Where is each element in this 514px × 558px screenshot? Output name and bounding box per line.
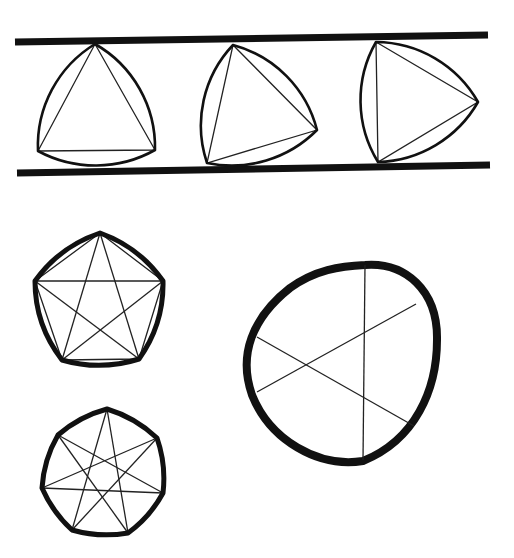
width-chord: [363, 265, 365, 460]
inscribed-triangle: [376, 42, 478, 162]
inscribed-triangle: [38, 44, 155, 151]
reuleaux-triangles: [38, 42, 478, 166]
reuleaux-outline: [38, 44, 155, 166]
triangle-1: [38, 44, 155, 166]
diagonal: [62, 233, 100, 360]
constant-width-diagram: [0, 0, 514, 558]
top-rail: [15, 35, 488, 42]
diagonal: [58, 435, 163, 493]
reuleaux-heptagon: [42, 409, 164, 535]
diagonal: [42, 488, 163, 493]
triangle-3: [361, 42, 478, 162]
triangle-2: [201, 45, 317, 166]
reuleaux-pentagon: [35, 233, 163, 365]
width-chord: [257, 337, 414, 426]
constant-width-curve: [247, 265, 437, 462]
diagonal: [107, 409, 128, 533]
width-chord: [257, 304, 416, 392]
reuleaux-heptagon-outline: [42, 409, 164, 535]
diagonal: [58, 435, 128, 533]
smooth-constant-width-outline: [247, 265, 437, 462]
